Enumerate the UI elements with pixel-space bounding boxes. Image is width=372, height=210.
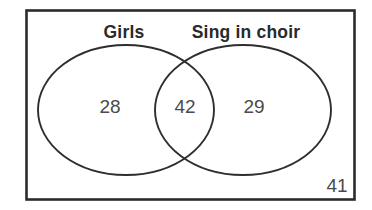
- region-count-girls-only: 28: [99, 96, 120, 117]
- region-count-outside: 41: [326, 175, 347, 196]
- venn-diagram-page: Girls Sing in choir 28 42 29 41: [0, 0, 372, 210]
- set-label-sing-in-choir: Sing in choir: [192, 22, 301, 42]
- region-count-intersection: 42: [174, 96, 195, 117]
- set-label-girls: Girls: [104, 22, 145, 42]
- venn-diagram-canvas: Girls Sing in choir 28 42 29 41: [0, 0, 372, 210]
- region-count-choir-only: 29: [243, 96, 264, 117]
